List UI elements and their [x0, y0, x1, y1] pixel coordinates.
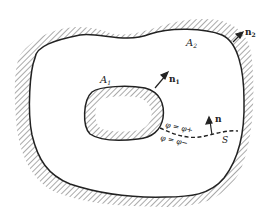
outer-boundary-curve: [29, 29, 244, 197]
outer-normal-sub: 2: [252, 31, 256, 38]
outer-boundary-sub: 2: [192, 42, 197, 49]
inner-normal-sub: 1: [176, 78, 180, 85]
outer-boundary-label: A: [185, 37, 193, 48]
svg-text:A2: A2: [185, 37, 197, 49]
cut-normal-label: n: [215, 114, 222, 124]
svg-text:A1: A1: [99, 74, 111, 86]
region-diagram: A2 n2 A1 n1 n S φ = φ+ φ = φ−: [0, 0, 267, 223]
svg-text:n2: n2: [245, 27, 256, 38]
svg-text:n1: n1: [169, 74, 180, 85]
cut-name-label: S: [222, 135, 228, 145]
phi-minus-label: φ = φ−: [160, 133, 189, 148]
inner-boundary-sub: 1: [107, 79, 111, 86]
outer-hatch: [15, 19, 254, 207]
inner-boundary-label: A: [99, 74, 107, 85]
